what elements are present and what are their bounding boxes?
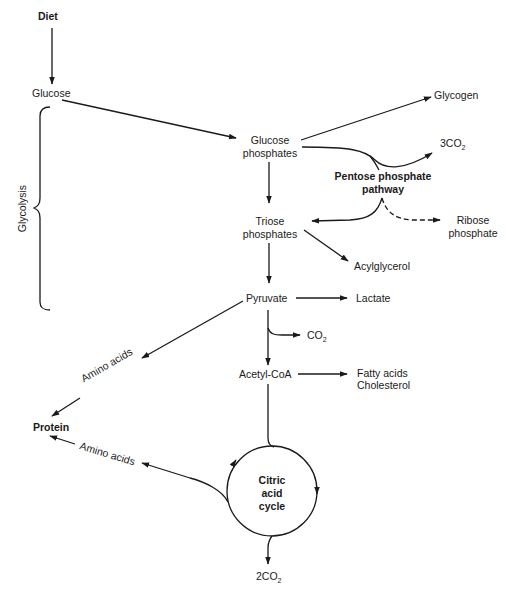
node-pyruvate: Pyruvate bbox=[246, 292, 287, 305]
node-3co2-sub: 2 bbox=[462, 144, 466, 151]
node-triose-line1: Triose bbox=[240, 215, 300, 228]
node-glucose-phosphates-line2: phosphates bbox=[239, 147, 301, 160]
node-2co2-text: 2CO bbox=[256, 570, 278, 582]
node-acylglycerol: Acylglycerol bbox=[354, 260, 410, 273]
node-fatty-acids: Fatty acids bbox=[357, 367, 410, 379]
label-glycolysis: Glycolysis bbox=[16, 179, 29, 239]
node-protein: Protein bbox=[33, 421, 69, 434]
node-ribose-line2: phosphate bbox=[445, 227, 501, 240]
node-diet: Diet bbox=[38, 10, 58, 23]
node-triose-line2: phosphates bbox=[240, 228, 300, 241]
node-co2-sub: 2 bbox=[323, 336, 327, 343]
metabolic-pathway-diagram: Diet Glucose Glucose phosphates Glycogen… bbox=[0, 0, 506, 597]
node-citric-line2: acid bbox=[247, 487, 297, 500]
node-citric-line1: Citric bbox=[247, 474, 297, 487]
node-glucose-phosphates: Glucose phosphates bbox=[239, 134, 301, 160]
node-pentose-line2: pathway bbox=[333, 183, 433, 196]
node-co2: CO2 bbox=[307, 329, 327, 346]
node-citric-acid-cycle: Citric acid cycle bbox=[247, 474, 297, 513]
node-ribose-phosphate: Ribose phosphate bbox=[445, 214, 501, 240]
node-ribose-line1: Ribose bbox=[445, 214, 501, 227]
node-glycogen: Glycogen bbox=[434, 89, 478, 102]
node-pentose-line1: Pentose phosphate bbox=[333, 170, 433, 183]
node-2co2: 2CO2 bbox=[256, 570, 282, 587]
node-3co2-text: 3CO bbox=[440, 137, 462, 149]
node-fatty-acids-cholesterol: Fatty acids Cholesterol bbox=[357, 367, 410, 391]
node-pentose-phosphate-pathway: Pentose phosphate pathway bbox=[333, 170, 433, 196]
node-glucose: Glucose bbox=[32, 87, 71, 100]
node-glucose-phosphates-line1: Glucose bbox=[239, 134, 301, 147]
node-2co2-sub: 2 bbox=[278, 577, 282, 584]
node-citric-line3: cycle bbox=[247, 500, 297, 513]
node-lactate: Lactate bbox=[356, 292, 390, 305]
node-cholesterol: Cholesterol bbox=[357, 379, 410, 391]
node-acetyl-coa: Acetyl-CoA bbox=[239, 368, 292, 381]
node-co2-text: CO bbox=[307, 329, 323, 341]
node-3co2: 3CO2 bbox=[440, 137, 466, 154]
node-triose-phosphates: Triose phosphates bbox=[240, 215, 300, 241]
